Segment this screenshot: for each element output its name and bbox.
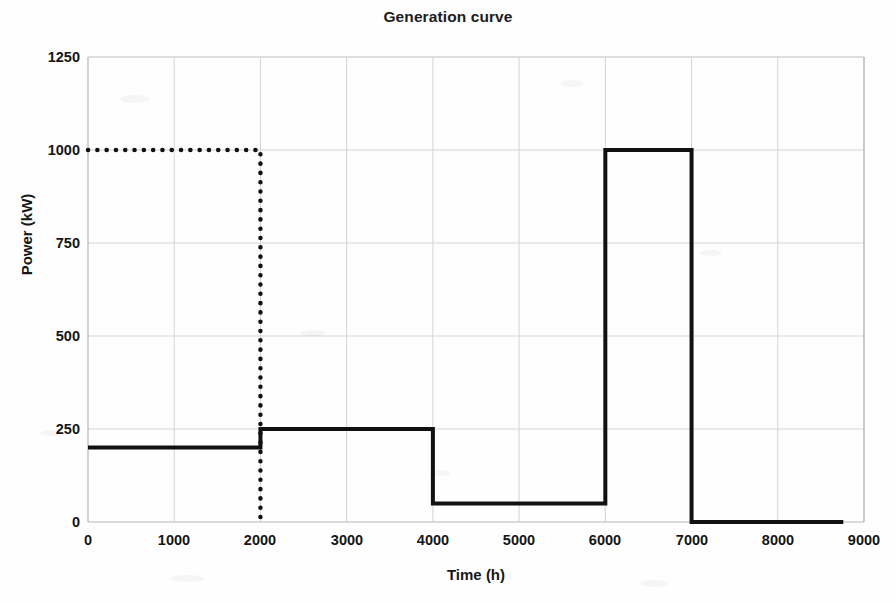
gridlines	[88, 57, 864, 522]
plot-area	[0, 0, 896, 603]
plot-border	[88, 57, 864, 522]
generation-curve-chart: Generation curve Power (kW) 0 250 500 75…	[0, 0, 896, 603]
